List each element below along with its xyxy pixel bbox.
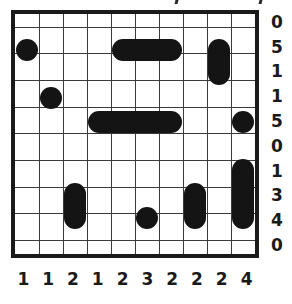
grid-cell-r1-c2[interactable]	[39, 14, 63, 27]
grid-cell-r3-c8[interactable]	[183, 54, 207, 81]
grid-cell-r1-c7[interactable]	[159, 14, 183, 27]
grid-cell-r6-c10[interactable]	[231, 134, 255, 161]
grid-cell-r1-c4[interactable]	[87, 14, 111, 27]
grid-cell-r8-c3[interactable]	[63, 187, 87, 214]
grid-cell-r3-c3[interactable]	[63, 54, 87, 81]
grid-cell-r4-c5[interactable]	[111, 81, 135, 108]
grid-cell-r2-c9[interactable]	[207, 27, 231, 54]
grid-cell-r2-c3[interactable]	[63, 27, 87, 54]
grid-cell-r6-c8[interactable]	[183, 134, 207, 161]
grid-cell-r4-c1[interactable]	[15, 81, 39, 108]
grid-cell-r8-c9[interactable]	[207, 187, 231, 214]
grid-cell-r7-c3[interactable]	[63, 161, 87, 188]
grid-cell-r6-c4[interactable]	[87, 134, 111, 161]
grid-cell-r2-c4[interactable]	[87, 27, 111, 54]
grid-cell-r3-c6[interactable]	[135, 54, 159, 81]
grid-cell-r1-c9[interactable]	[207, 14, 231, 27]
grid-cell-r7-c5[interactable]	[111, 161, 135, 188]
grid-cell-r10-c10[interactable]	[231, 241, 255, 254]
grid-cell-r8-c10[interactable]	[231, 187, 255, 214]
grid-cell-r6-c5[interactable]	[111, 134, 135, 161]
grid-cell-r8-c1[interactable]	[15, 187, 39, 214]
grid-cell-r1-c3[interactable]	[63, 14, 87, 27]
grid-cell-r10-c8[interactable]	[183, 241, 207, 254]
grid-cell-r2-c10[interactable]	[231, 27, 255, 54]
grid-cell-r2-c1[interactable]	[15, 27, 39, 54]
grid-cell-r10-c1[interactable]	[15, 241, 39, 254]
grid-cell-r3-c5[interactable]	[111, 54, 135, 81]
grid-cell-r4-c7[interactable]	[159, 81, 183, 108]
grid-cell-r3-c7[interactable]	[159, 54, 183, 81]
grid-cell-r2-c8[interactable]	[183, 27, 207, 54]
grid-cell-r6-c7[interactable]	[159, 134, 183, 161]
grid-cell-r9-c2[interactable]	[39, 214, 63, 241]
grid-cell-r4-c4[interactable]	[87, 81, 111, 108]
grid-cell-r5-c9[interactable]	[207, 107, 231, 134]
grid-cell-r2-c7[interactable]	[159, 27, 183, 54]
grid-cell-r1-c6[interactable]	[135, 14, 159, 27]
grid-cell-r8-c7[interactable]	[159, 187, 183, 214]
grid-cell-r8-c6[interactable]	[135, 187, 159, 214]
grid-cell-r2-c6[interactable]	[135, 27, 159, 54]
grid-cell-r9-c8[interactable]	[183, 214, 207, 241]
grid-cell-r10-c3[interactable]	[63, 241, 87, 254]
grid-cell-r9-c6[interactable]	[135, 214, 159, 241]
grid-cell-r7-c7[interactable]	[159, 161, 183, 188]
grid-cell-r6-c9[interactable]	[207, 134, 231, 161]
grid-cell-r6-c2[interactable]	[39, 134, 63, 161]
grid-cell-r5-c5[interactable]	[111, 107, 135, 134]
grid-cell-r10-c4[interactable]	[87, 241, 111, 254]
grid-cell-r7-c1[interactable]	[15, 161, 39, 188]
grid-cell-r6-c6[interactable]	[135, 134, 159, 161]
grid-cell-r3-c9[interactable]	[207, 54, 231, 81]
grid-cell-r7-c2[interactable]	[39, 161, 63, 188]
grid-cell-r4-c6[interactable]	[135, 81, 159, 108]
grid-cell-r9-c5[interactable]	[111, 214, 135, 241]
puzzle-grid[interactable]	[11, 10, 259, 258]
grid-cell-r9-c4[interactable]	[87, 214, 111, 241]
grid-cell-r1-c10[interactable]	[231, 14, 255, 27]
grid-cell-r3-c4[interactable]	[87, 54, 111, 81]
grid-cell-r3-c1[interactable]	[15, 54, 39, 81]
grid-cell-r4-c10[interactable]	[231, 81, 255, 108]
grid-cell-r7-c10[interactable]	[231, 161, 255, 188]
grid-cell-r5-c2[interactable]	[39, 107, 63, 134]
grid-cell-r5-c7[interactable]	[159, 107, 183, 134]
grid-cell-r4-c2[interactable]	[39, 81, 63, 108]
grid-cell-r5-c4[interactable]	[87, 107, 111, 134]
grid-cell-r8-c4[interactable]	[87, 187, 111, 214]
grid-cell-r9-c3[interactable]	[63, 214, 87, 241]
grid-cell-r7-c9[interactable]	[207, 161, 231, 188]
grid-cell-r1-c5[interactable]	[111, 14, 135, 27]
grid-cell-r7-c6[interactable]	[135, 161, 159, 188]
grid-cell-r9-c7[interactable]	[159, 214, 183, 241]
grid-cell-r4-c9[interactable]	[207, 81, 231, 108]
grid-cell-r7-c8[interactable]	[183, 161, 207, 188]
grid-cell-r10-c6[interactable]	[135, 241, 159, 254]
grid-cell-r3-c10[interactable]	[231, 54, 255, 81]
grid-cell-r10-c2[interactable]	[39, 241, 63, 254]
grid-cell-r5-c6[interactable]	[135, 107, 159, 134]
grid-cell-r10-c5[interactable]	[111, 241, 135, 254]
grid-cell-r5-c8[interactable]	[183, 107, 207, 134]
grid-cell-r2-c2[interactable]	[39, 27, 63, 54]
grid-cell-r2-c5[interactable]	[111, 27, 135, 54]
grid-cell-r8-c5[interactable]	[111, 187, 135, 214]
grid-cell-r4-c8[interactable]	[183, 81, 207, 108]
grid-cell-r8-c2[interactable]	[39, 187, 63, 214]
grid-cell-r9-c9[interactable]	[207, 214, 231, 241]
grid-cell-r7-c4[interactable]	[87, 161, 111, 188]
grid-cell-r10-c7[interactable]	[159, 241, 183, 254]
grid-cell-r6-c1[interactable]	[15, 134, 39, 161]
grid-cell-r1-c8[interactable]	[183, 14, 207, 27]
grid-cell-r10-c9[interactable]	[207, 241, 231, 254]
grid-cell-r8-c8[interactable]	[183, 187, 207, 214]
grid-cell-r6-c3[interactable]	[63, 134, 87, 161]
grid-cell-r5-c10[interactable]	[231, 107, 255, 134]
grid-cell-r5-c1[interactable]	[15, 107, 39, 134]
grid-cell-r4-c3[interactable]	[63, 81, 87, 108]
grid-cell-r1-c1[interactable]	[15, 14, 39, 27]
grid-cell-r9-c1[interactable]	[15, 214, 39, 241]
grid-cell-r5-c3[interactable]	[63, 107, 87, 134]
grid-cell-r9-c10[interactable]	[231, 214, 255, 241]
